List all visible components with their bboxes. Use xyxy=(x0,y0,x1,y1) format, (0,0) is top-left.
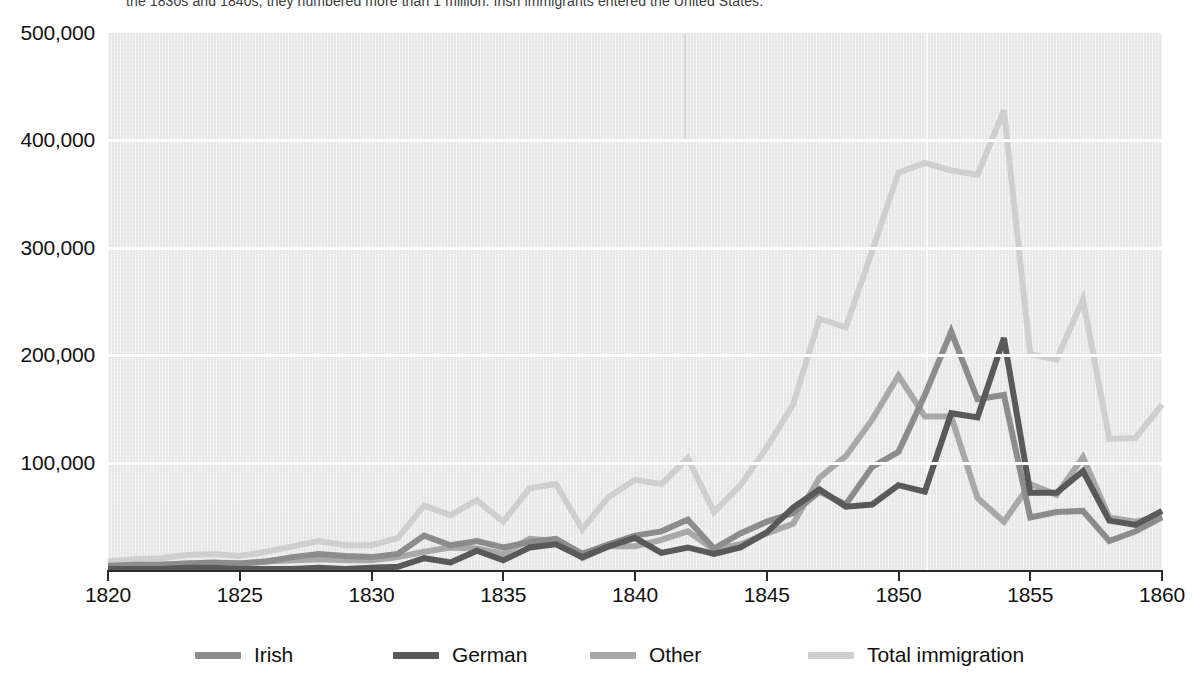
legend-label: Other xyxy=(649,643,701,667)
y-axis-tick-label: 200,000 xyxy=(20,344,95,365)
legend: IrishGermanOtherTotal immigration xyxy=(0,640,1192,674)
legend-label: Irish xyxy=(254,643,293,667)
caption-strip: the 1830s and 1840s, they numbered more … xyxy=(0,0,1192,11)
x-axis-tick-mark xyxy=(107,570,109,581)
legend-item-total-immigration[interactable]: Total immigration xyxy=(808,640,1024,670)
x-axis-labels: 182018251830183518401845185018551860 xyxy=(0,583,1192,613)
y-axis-labels: 100,000200,000300,000400,000500,000 xyxy=(0,0,103,600)
x-axis-tick-mark xyxy=(898,570,900,581)
x-axis-tick-label: 1860 xyxy=(1139,583,1185,607)
series-line-irish xyxy=(108,332,1162,566)
x-axis-tick-mark xyxy=(766,570,768,581)
x-axis-ticks xyxy=(0,570,1192,582)
y-axis-tick-label: 300,000 xyxy=(20,237,95,258)
gridline xyxy=(108,139,1162,142)
legend-item-other[interactable]: Other xyxy=(590,640,701,670)
legend-label: German xyxy=(452,643,527,667)
immigration-line-chart: the 1830s and 1840s, they numbered more … xyxy=(0,0,1192,680)
gridline xyxy=(108,462,1162,465)
x-axis-tick-label: 1850 xyxy=(876,583,922,607)
x-axis-tick-label: 1825 xyxy=(217,583,263,607)
legend-swatch-icon xyxy=(808,652,854,659)
legend-item-irish[interactable]: Irish xyxy=(195,640,293,670)
caption-text: the 1830s and 1840s, they numbered more … xyxy=(0,0,1192,11)
x-axis-tick-mark xyxy=(502,570,504,581)
gridline xyxy=(108,247,1162,250)
x-axis-tick-mark xyxy=(1029,570,1031,581)
legend-swatch-icon xyxy=(195,652,241,659)
x-axis-tick-mark xyxy=(634,570,636,581)
x-axis-tick-mark xyxy=(371,570,373,581)
x-axis-tick-label: 1820 xyxy=(85,583,131,607)
x-axis-tick-label: 1855 xyxy=(1007,583,1053,607)
gridline xyxy=(108,354,1162,357)
legend-swatch-icon xyxy=(393,652,439,659)
x-axis-tick-label: 1830 xyxy=(349,583,395,607)
legend-swatch-icon xyxy=(590,652,636,659)
series-layer xyxy=(108,33,1162,570)
legend-item-german[interactable]: German xyxy=(393,640,527,670)
x-axis-tick-label: 1840 xyxy=(612,583,658,607)
plot-area xyxy=(108,33,1162,570)
x-axis-tick-mark xyxy=(1161,570,1163,581)
x-axis-tick-label: 1845 xyxy=(744,583,790,607)
y-axis-tick-label: 100,000 xyxy=(20,452,95,473)
x-axis-tick-mark xyxy=(239,570,241,581)
y-axis-tick-label: 500,000 xyxy=(20,22,95,43)
y-axis-tick-label: 400,000 xyxy=(20,129,95,150)
x-axis-tick-label: 1835 xyxy=(480,583,526,607)
legend-label: Total immigration xyxy=(867,643,1024,667)
series-line-total-immigration xyxy=(108,110,1162,561)
